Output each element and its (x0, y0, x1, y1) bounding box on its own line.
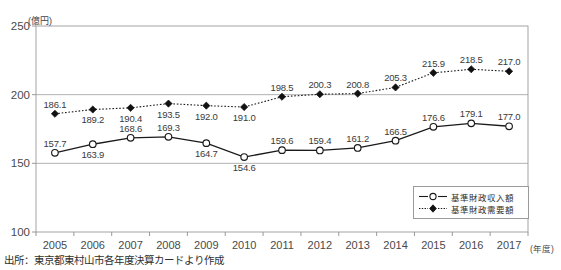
legend-symbol-filled-diamond-dotted (418, 203, 448, 214)
x-tick-2008: 2008 (148, 239, 188, 251)
x-tick-2017: 2017 (489, 239, 529, 251)
y-tick-100: 100 (0, 226, 30, 238)
value-label-demand-2017: 217.0 (498, 56, 521, 67)
value-label-demand-2009: 192.0 (195, 111, 218, 122)
legend-item-demand: 基準財政需要額 (418, 203, 523, 214)
value-label-revenue-2007: 168.6 (119, 123, 142, 134)
x-tick-2005: 2005 (35, 239, 75, 251)
value-label-revenue-2005: 157.7 (44, 138, 67, 149)
y-tick-150: 150 (0, 157, 30, 169)
value-label-demand-2015: 215.9 (422, 58, 445, 69)
value-label-revenue-2014: 166.5 (384, 126, 407, 137)
x-tick-2015: 2015 (413, 239, 453, 251)
value-label-demand-2011: 198.5 (271, 82, 294, 93)
x-axis-unit-label: (年度) (530, 242, 554, 254)
value-label-demand-2005: 186.1 (44, 99, 67, 110)
x-tick-2007: 2007 (111, 239, 151, 251)
legend-label-revenue: 基準財政収入額 (451, 191, 514, 203)
value-label-revenue-2010: 154.6 (233, 162, 256, 173)
chart-figure: (億円) 100150200250 2005200620072008200920… (0, 0, 561, 270)
value-label-demand-2010: 191.0 (233, 112, 256, 123)
y-axis-unit-label: (億円) (28, 14, 52, 27)
value-label-revenue-2017: 177.0 (498, 111, 521, 122)
value-label-demand-2008: 193.5 (157, 109, 180, 120)
y-tick-250: 250 (0, 20, 30, 32)
value-label-demand-2012: 200.3 (308, 79, 331, 90)
chart-legend: 基準財政収入額 基準財政需要額 (413, 186, 529, 219)
y-tick-200: 200 (0, 89, 30, 101)
value-label-demand-2014: 205.3 (384, 72, 407, 83)
value-label-revenue-2012: 159.4 (308, 135, 331, 146)
value-label-demand-2016: 218.5 (460, 54, 483, 65)
value-label-revenue-2016: 179.1 (460, 108, 483, 119)
value-label-demand-2013: 200.8 (346, 79, 369, 90)
legend-label-demand: 基準財政需要額 (451, 203, 514, 215)
legend-item-revenue: 基準財政収入額 (418, 191, 523, 202)
x-tick-2010: 2010 (224, 239, 264, 251)
value-label-revenue-2011: 159.6 (271, 135, 294, 146)
value-label-demand-2007: 190.4 (119, 113, 142, 124)
x-tick-2016: 2016 (451, 239, 491, 251)
value-label-revenue-2006: 163.9 (81, 149, 104, 160)
value-label-demand-2006: 189.2 (81, 114, 104, 125)
x-tick-2006: 2006 (73, 239, 113, 251)
x-tick-2013: 2013 (338, 239, 378, 251)
value-label-revenue-2008: 169.3 (157, 122, 180, 133)
value-label-revenue-2013: 161.2 (346, 133, 369, 144)
value-label-revenue-2015: 176.6 (422, 112, 445, 123)
value-label-revenue-2009: 164.7 (195, 148, 218, 159)
legend-symbol-open-circle-line (418, 191, 448, 202)
x-tick-2011: 2011 (262, 239, 302, 251)
x-tick-2012: 2012 (300, 239, 340, 251)
x-tick-2009: 2009 (186, 239, 226, 251)
x-tick-2014: 2014 (376, 239, 416, 251)
source-note: 出所：東京都東村山市各年度決算カードより作成 (4, 252, 224, 267)
